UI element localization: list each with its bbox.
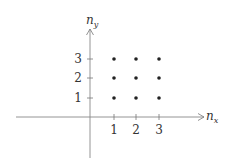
x-axis-label: nx: [206, 109, 219, 125]
point-2-3: [134, 57, 138, 61]
point-1-1: [112, 96, 116, 100]
y-tick-label-1: 1: [74, 91, 82, 105]
point-1-2: [112, 76, 116, 80]
y-axis-label: ny: [86, 13, 99, 29]
point-2-1: [134, 96, 138, 100]
point-1-3: [112, 57, 116, 61]
point-3-3: [157, 57, 161, 61]
y-tick-label-3: 3: [74, 52, 82, 66]
point-2-2: [134, 76, 138, 80]
y-tick-label-2: 2: [74, 71, 82, 85]
point-3-1: [157, 96, 161, 100]
lattice-points: [112, 57, 161, 100]
x-tick-label-2: 2: [132, 123, 140, 137]
x-tick-label-3: 3: [155, 123, 163, 137]
point-3-2: [157, 76, 161, 80]
lattice-diagram: 1 2 3 3 2 1 ny nx: [0, 0, 229, 167]
x-tick-label-1: 1: [110, 123, 118, 137]
